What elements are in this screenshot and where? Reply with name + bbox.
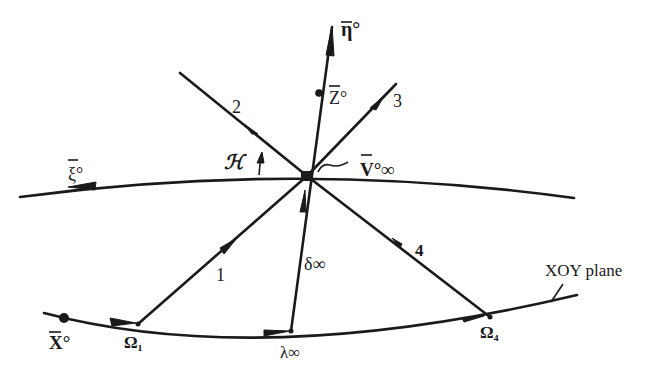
x-point [59, 313, 69, 323]
ray-3-arrow-icon [370, 96, 384, 110]
ray-2-label: 2 [232, 97, 241, 117]
x-label: X° [49, 332, 70, 353]
ray-2-arrow-icon [244, 124, 258, 134]
diagram-canvas: η° Z° 2 3 ℋ ξ° V°∞ 1 δ∞ 4 XOY plane X° Ω… [0, 0, 663, 379]
lambda-label: λ∞ [280, 343, 300, 362]
kappa-arrow-icon [257, 152, 264, 163]
ray-1-arrow-icon [220, 238, 237, 254]
delta-arrow-icon [300, 190, 306, 212]
lambda-point [289, 329, 294, 334]
v-infinity-label: V°∞ [360, 159, 395, 180]
xoy-plane-label: XOY plane [545, 261, 622, 280]
omega1-label: Ω₁ [124, 333, 143, 352]
delta-label: δ∞ [304, 254, 325, 274]
xoy-arrow-1-icon [110, 318, 136, 326]
xi-label: ξ° [68, 164, 83, 184]
omega4-label: Ω₄ [480, 323, 499, 342]
kappa-label: ℋ [224, 151, 247, 173]
xi-curve [20, 179, 574, 198]
ray-3-label: 3 [393, 91, 402, 111]
eta-arrow-icon [326, 26, 334, 56]
omega4-point [488, 315, 493, 320]
ray-4-label: 4 [415, 241, 424, 260]
z-label: Z° [329, 88, 347, 108]
v-infinity-point [301, 171, 312, 181]
v-label-leader [318, 162, 348, 172]
omega1-point [136, 322, 141, 327]
xoy-arrow-2-icon [264, 330, 290, 336]
z-point [315, 89, 323, 97]
ray-1-label: 1 [216, 265, 225, 285]
